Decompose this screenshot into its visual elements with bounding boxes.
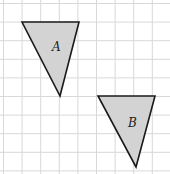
triangle-a-label: A [51,40,61,54]
grid-diagram: A B [0,0,170,174]
triangle-b-label: B [127,116,137,130]
triangle-b [98,96,155,167]
